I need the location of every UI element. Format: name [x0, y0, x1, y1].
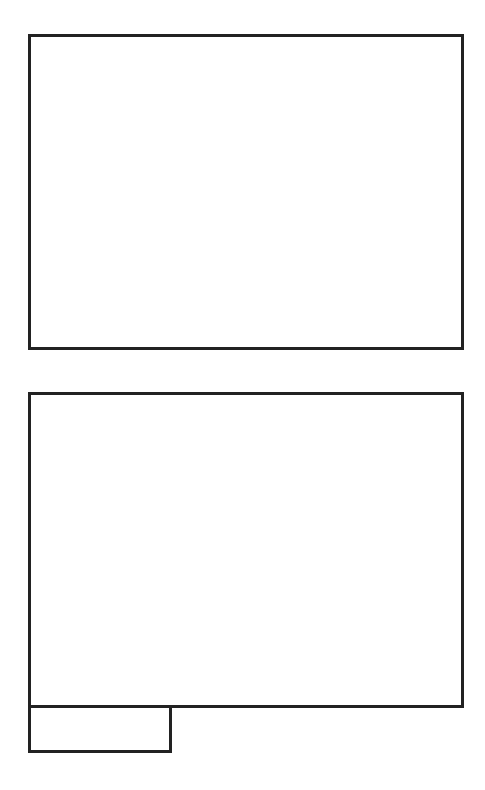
bottom-empty-panel [28, 392, 464, 708]
top-empty-panel [28, 34, 464, 350]
bottom-left-tab-box [28, 705, 172, 753]
